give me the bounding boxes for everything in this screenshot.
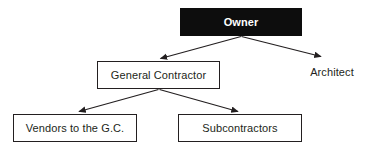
edge-gc-to-vendors [79, 90, 159, 112]
node-architect: Architect [302, 62, 362, 82]
org-chart-diagram: Owner General Contractor Architect Vendo… [0, 0, 387, 150]
edge-gc-to-subcontractors [160, 90, 239, 112]
node-owner-label: Owner [224, 17, 259, 28]
node-general-contractor-label: General Contractor [111, 70, 206, 81]
node-owner: Owner [180, 8, 302, 36]
node-subcontractors: Subcontractors [178, 114, 302, 142]
node-vendors-to-the-gc: Vendors to the G.C. [13, 114, 137, 142]
node-architect-label: Architect [310, 67, 354, 78]
node-subcontractors-label: Subcontractors [202, 123, 277, 134]
node-general-contractor: General Contractor [97, 61, 220, 89]
edge-owner-to-architect [242, 37, 322, 57]
edge-owner-to-general-contractor [161, 37, 242, 59]
node-vendors-to-the-gc-label: Vendors to the G.C. [26, 123, 125, 134]
